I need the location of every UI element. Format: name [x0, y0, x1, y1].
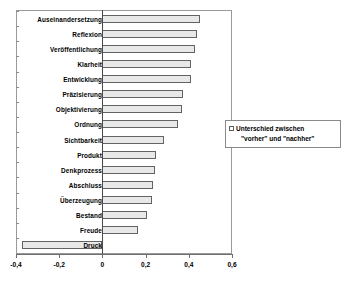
legend-label-line1: Unterschied zwischen [236, 125, 304, 132]
legend-swatch-icon [229, 126, 234, 131]
category-tick [16, 177, 19, 178]
bar-chart: AuseinandersetzungReflexionVeröffentlich… [0, 0, 346, 282]
category-label: Produkt [77, 151, 102, 158]
legend-entry: Unterschied zwischen "vorher" und "nachh… [229, 124, 336, 144]
category-label: Denkprozess [61, 166, 102, 173]
bar [102, 60, 191, 68]
category-tick [16, 193, 19, 194]
category-label: Ordnung [74, 121, 102, 128]
bar [102, 226, 138, 234]
category-tick [16, 56, 19, 57]
bar-row: Entwicklung [16, 72, 232, 87]
bar-row: Bestand [16, 208, 232, 223]
category-tick [16, 238, 19, 239]
x-axis-line [16, 254, 233, 255]
bar-row: Objektivierung [16, 102, 232, 117]
x-tick-mark [232, 254, 233, 258]
category-tick [16, 208, 19, 209]
bar-row: Ordnung [16, 117, 232, 132]
bar [102, 136, 164, 144]
x-tick-mark [59, 254, 60, 258]
category-label: Präzisierung [62, 91, 102, 98]
bar [102, 166, 155, 174]
category-label: Veröffentlichung [50, 45, 102, 52]
bar-row: Abschluss [16, 177, 232, 192]
bar-row: Denkprozess [16, 162, 232, 177]
bar-row: Reflexion [16, 26, 232, 41]
x-tick-label: 0,6 [227, 261, 236, 268]
bar [22, 241, 102, 249]
category-tick [16, 162, 19, 163]
bar-row: Veröffentlichung [16, 41, 232, 56]
bar [102, 105, 182, 113]
category-tick [16, 223, 19, 224]
bar [102, 30, 197, 38]
bar [102, 90, 183, 98]
bar-row: Klarheit [16, 56, 232, 71]
bar [102, 196, 152, 204]
category-tick [16, 147, 19, 148]
category-tick [16, 41, 19, 42]
category-tick [16, 117, 19, 118]
category-tick [16, 132, 19, 133]
bar-row: Sichtbarkeit [16, 132, 232, 147]
bar-row: Präzisierung [16, 87, 232, 102]
category-label: Auseinandersetzung [37, 15, 102, 22]
x-tick-mark [102, 254, 103, 258]
x-tick-mark [16, 254, 17, 258]
category-label: Bestand [76, 212, 102, 219]
legend-label-line2: "vorher" und "nachher" [236, 134, 314, 144]
category-tick [16, 102, 19, 103]
bar-row: Produkt [16, 147, 232, 162]
x-tick-label: 0,2 [141, 261, 150, 268]
category-label: Sichtbarkeit [64, 136, 102, 143]
category-label: Abschluss [69, 181, 102, 188]
category-label: Klarheit [77, 60, 102, 67]
bar-row: Druck [16, 238, 232, 253]
bar [102, 15, 199, 23]
category-label: Entwicklung [63, 76, 102, 83]
bar [102, 75, 191, 83]
category-label: Reflexion [72, 30, 102, 37]
category-tick [16, 87, 19, 88]
category-label: Freude [80, 227, 102, 234]
bar [102, 151, 156, 159]
bar-row: Überzeugung [16, 193, 232, 208]
x-tick-label: 0,4 [184, 261, 193, 268]
chart-legend: Unterschied zwischen "vorher" und "nachh… [225, 120, 341, 148]
x-tick-label: -0,4 [10, 261, 21, 268]
bar [102, 120, 178, 128]
x-tick-label: -0,2 [54, 261, 65, 268]
bar [102, 45, 195, 53]
x-tick-mark [146, 254, 147, 258]
bar [102, 181, 153, 189]
category-label: Objektivierung [56, 106, 102, 113]
bar-rows: AuseinandersetzungReflexionVeröffentlich… [16, 11, 232, 253]
category-label: Überzeugung [60, 197, 102, 204]
category-tick [16, 26, 19, 27]
x-tick-label: 0 [101, 261, 105, 268]
legend-label: Unterschied zwischen "vorher" und "nachh… [236, 124, 314, 144]
zero-axis-line [102, 10, 103, 254]
bar-row: Freude [16, 223, 232, 238]
x-tick-mark [189, 254, 190, 258]
category-tick [16, 11, 19, 12]
bar-row: Auseinandersetzung [16, 11, 232, 26]
bar [102, 211, 146, 219]
category-tick [16, 72, 19, 73]
